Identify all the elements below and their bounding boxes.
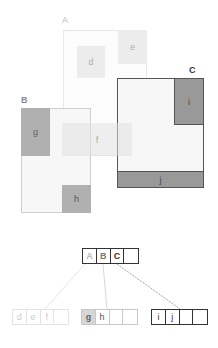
tree-node-b: g h	[81, 309, 138, 325]
tree-node-c: i j	[151, 309, 208, 325]
node-b-cell-empty-1	[110, 310, 124, 324]
node-c-cell-empty-1	[180, 310, 194, 324]
root-cell-empty	[124, 249, 138, 263]
node-a-cell-empty	[54, 310, 68, 324]
node-c-cell-j: j	[166, 310, 180, 324]
root-cell-b: B	[97, 249, 111, 263]
node-b-cell-g: g	[82, 310, 96, 324]
node-b-cell-h: h	[96, 310, 110, 324]
tree-node-a: d e f	[12, 309, 69, 325]
node-c-cell-i: i	[152, 310, 166, 324]
node-b-cell-empty-2	[123, 310, 137, 324]
tree-connectors	[0, 0, 218, 348]
root-cell-a: A	[83, 249, 97, 263]
node-a-cell-f: f	[41, 310, 55, 324]
tree-root-node: A B C	[82, 248, 139, 264]
node-a-cell-e: e	[27, 310, 41, 324]
node-c-cell-empty-2	[193, 310, 207, 324]
node-a-cell-d: d	[13, 310, 27, 324]
root-cell-c: C	[111, 249, 125, 263]
